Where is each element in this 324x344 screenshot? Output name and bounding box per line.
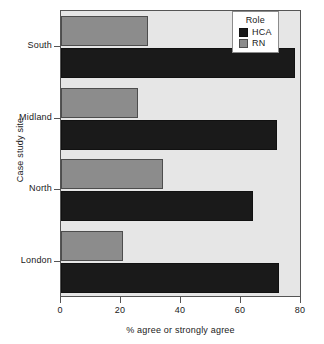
x-tick-label-60: 60	[225, 305, 255, 315]
x-tick-label-40: 40	[165, 305, 195, 315]
legend-label-rn: RN	[252, 38, 265, 48]
bar-midland-rn	[61, 88, 138, 118]
x-tick-0	[60, 297, 61, 303]
y-tick-midland	[54, 118, 60, 119]
y-axis-title: Case study site	[15, 80, 25, 220]
chart-figure: Case study site SouthMidlandNorthLondon …	[0, 0, 324, 344]
x-tick-60	[240, 297, 241, 303]
legend-swatch-hca-icon	[239, 28, 248, 37]
x-axis-title: % agree or strongly agree	[60, 325, 301, 335]
y-tick-north	[54, 189, 60, 190]
plot-panel	[60, 10, 301, 297]
y-tick-label-south: South	[0, 40, 52, 50]
bar-north-rn	[61, 159, 163, 189]
legend-title: Role	[239, 15, 272, 25]
y-tick-label-midland: Midland	[0, 112, 52, 122]
legend-swatch-rn-icon	[239, 39, 248, 48]
bar-london-rn	[61, 231, 123, 261]
legend-row-rn: RN	[239, 38, 272, 48]
x-tick-label-80: 80	[285, 305, 315, 315]
x-tick-label-0: 0	[45, 305, 75, 315]
legend-row-hca: HCA	[239, 27, 272, 37]
legend: Role HCARN	[232, 11, 279, 53]
legend-label-hca: HCA	[252, 27, 272, 37]
y-tick-london	[54, 261, 60, 262]
x-tick-label-20: 20	[105, 305, 135, 315]
legend-entries: HCARN	[239, 27, 272, 48]
bar-south-rn	[61, 16, 148, 46]
x-tick-40	[180, 297, 181, 303]
bar-midland-hca	[61, 120, 277, 150]
y-tick-south	[54, 46, 60, 47]
bar-north-hca	[61, 191, 253, 221]
y-tick-label-london: London	[0, 255, 52, 265]
x-tick-80	[300, 297, 301, 303]
y-tick-label-north: North	[0, 183, 52, 193]
x-tick-20	[120, 297, 121, 303]
bar-london-hca	[61, 263, 279, 293]
